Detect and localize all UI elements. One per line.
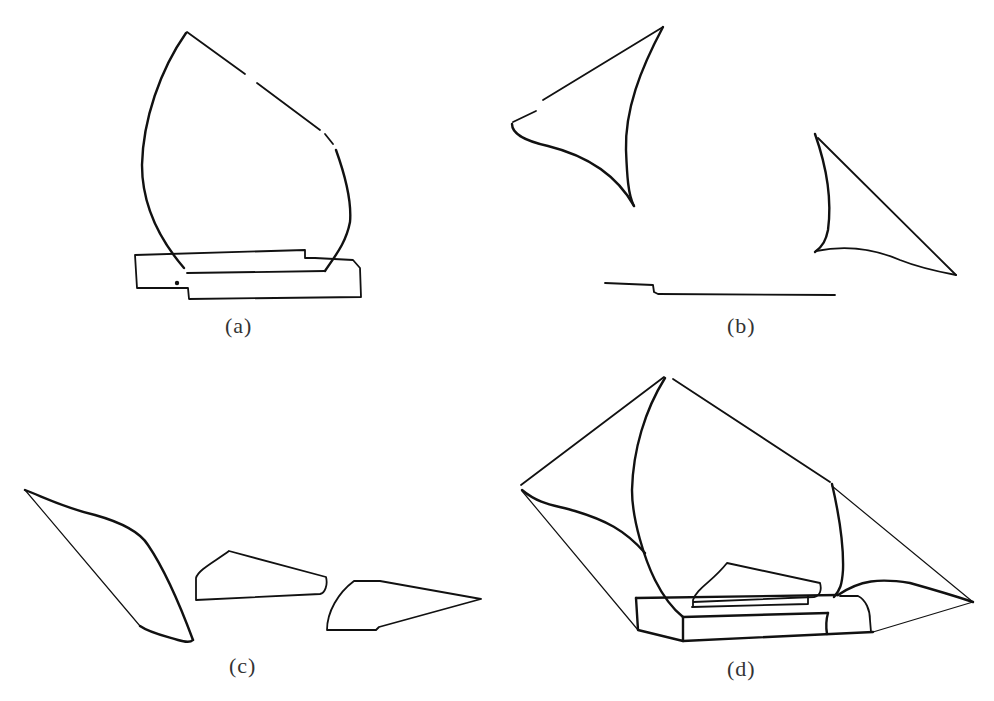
- caption-panel-a: (a): [225, 313, 252, 339]
- sail-top-edge-3: [325, 134, 333, 144]
- panel-c-drawing: [25, 490, 481, 642]
- right-side-edge: [832, 486, 973, 602]
- left-triangle-top-edge-tail: [513, 111, 536, 122]
- base-outline: [135, 250, 361, 299]
- base-inner-line: [187, 271, 325, 273]
- leaf-piece-left-edge: [25, 490, 140, 626]
- top-wedge: [693, 563, 821, 606]
- leaf-piece-bottom-edge: [140, 626, 193, 642]
- sail-top-edge-1: [187, 32, 245, 74]
- right-side-curve: [838, 581, 973, 602]
- right-triangle-left-edge: [815, 134, 829, 252]
- caption-panel-d: (d): [727, 656, 756, 682]
- right-triangle-bottom-edge: [816, 248, 956, 275]
- left-triangle-right-edge: [626, 27, 663, 206]
- panel-a-drawing: [135, 32, 361, 299]
- caption-panel-c: (c): [229, 653, 256, 679]
- base-dot: [175, 281, 179, 285]
- box-bottom-edge: [683, 632, 873, 641]
- box-right-end: [826, 613, 828, 634]
- left-triangle-bottom-edge: [512, 124, 634, 206]
- leaf-piece-right-edge: [25, 490, 193, 640]
- base-line: [605, 283, 835, 295]
- box-rounded-end: [840, 596, 871, 632]
- middle-wedge: [196, 551, 327, 600]
- sail-left-edge: [142, 33, 186, 268]
- left-side-curve: [522, 490, 645, 553]
- sail-left-curve: [632, 378, 683, 617]
- box-front-top: [683, 613, 828, 617]
- panel-b-drawing: [512, 27, 956, 295]
- right-upper-edge: [673, 379, 830, 482]
- line-drawing-figure: [0, 0, 994, 701]
- sail-right-curve: [832, 484, 843, 597]
- sail-right-edge: [325, 150, 350, 271]
- right-lower-edge: [873, 602, 973, 632]
- box-left-face: [636, 598, 683, 641]
- right-wedge: [327, 581, 481, 630]
- sail-top-edge-2: [257, 83, 320, 130]
- caption-panel-b: (b): [727, 313, 756, 339]
- panel-d-drawing: [521, 377, 973, 641]
